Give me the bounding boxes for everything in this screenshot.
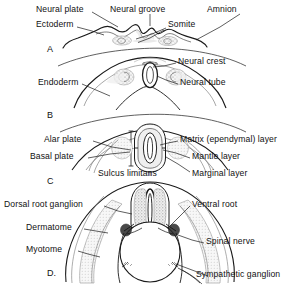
panel-letter-c: C: [47, 176, 54, 186]
panel-letter-a: A: [47, 44, 53, 54]
label-alar-plate: Alar plate: [44, 135, 81, 144]
label-somite: Somite: [168, 20, 195, 29]
panel-letter-d: D.: [47, 268, 56, 278]
label-neural-tube: Neural tube: [180, 78, 226, 87]
label-mantle-layer: Mantle layer: [192, 152, 240, 161]
label-ectoderm: Ectoderm: [36, 20, 74, 29]
label-matrix-layer: Matrix (ependymal) layer: [180, 135, 277, 144]
label-myotome: Myotome: [26, 245, 62, 254]
label-dermatome: Dermatome: [26, 223, 72, 232]
label-amnion: Amnion: [207, 5, 237, 14]
label-basal-plate: Basal plate: [30, 152, 74, 161]
panel-b-artwork: [60, 57, 246, 132]
panel-letter-b: B: [47, 110, 53, 120]
label-neural-plate: Neural plate: [36, 5, 84, 14]
label-ventral-root: Ventral root: [192, 200, 237, 209]
label-spinal-nerve: Spinal nerve: [206, 237, 255, 246]
label-neural-crest: Neural crest: [178, 57, 226, 66]
label-neural-groove: Neural groove: [110, 5, 165, 14]
label-dorsal-root-ganglion: Dorsal root ganglion: [4, 200, 83, 209]
label-endoderm: Endoderm: [38, 78, 78, 87]
label-sulcus-limitans: Sulcus limitans: [98, 169, 157, 178]
label-marginal-layer: Marginal layer: [192, 169, 247, 178]
neurulation-figure: A B C D. Neural plate Neural groove Amni…: [0, 0, 300, 288]
label-sympathetic-ganglion: Sympathetic ganglion: [196, 270, 280, 279]
